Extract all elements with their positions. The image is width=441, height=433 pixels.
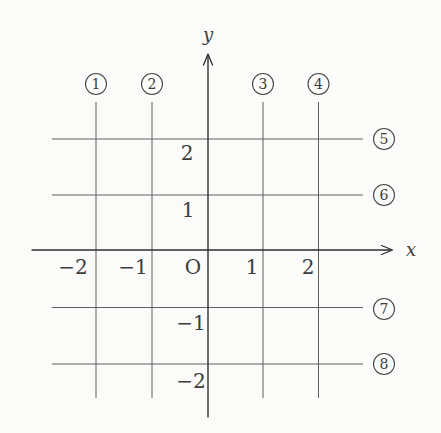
y-axis-label: y (202, 24, 214, 45)
badge-digit-3: 3 (259, 76, 268, 92)
x-tick-neg1: −1 (118, 255, 147, 279)
coordinate-grid-figure: x y O −2 −1 1 2 2 1 −1 −2 1 2 3 4 (0, 0, 441, 433)
y-tick-pos2: 2 (181, 141, 194, 165)
y-tick-neg2: −2 (176, 369, 205, 393)
y-tick-pos1: 1 (182, 198, 195, 222)
origin-label: O (185, 255, 201, 279)
badge-digit-2: 2 (148, 76, 157, 92)
badge-digit-4: 4 (314, 76, 323, 92)
x-tick-pos2: 2 (302, 255, 315, 279)
badge-digit-7: 7 (380, 301, 389, 317)
badge-digit-6: 6 (380, 187, 389, 203)
badge-digit-1: 1 (92, 76, 101, 92)
badge-digit-5: 5 (380, 131, 389, 147)
badge-digit-8: 8 (380, 356, 389, 372)
x-tick-neg2: −2 (58, 255, 87, 279)
figure-canvas: x y O −2 −1 1 2 2 1 −1 −2 1 2 3 4 (0, 0, 441, 433)
x-axis-label: x (406, 239, 416, 260)
y-tick-neg1: −1 (176, 311, 205, 335)
x-tick-pos1: 1 (246, 255, 259, 279)
